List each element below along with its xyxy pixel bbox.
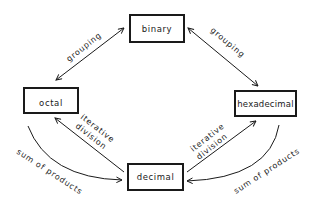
node-hexadecimal-label: hexadecimal bbox=[237, 99, 293, 109]
node-decimal-label: decimal bbox=[137, 172, 175, 182]
label-grouping-right: grouping bbox=[209, 26, 247, 60]
node-hexadecimal: hexadecimal bbox=[234, 90, 297, 117]
node-binary-label: binary bbox=[142, 24, 172, 34]
node-binary: binary bbox=[129, 14, 185, 43]
node-octal: octal bbox=[23, 87, 79, 114]
node-decimal: decimal bbox=[127, 163, 184, 191]
node-octal-label: octal bbox=[39, 98, 63, 108]
label-sum-right: sum of products bbox=[232, 146, 301, 195]
